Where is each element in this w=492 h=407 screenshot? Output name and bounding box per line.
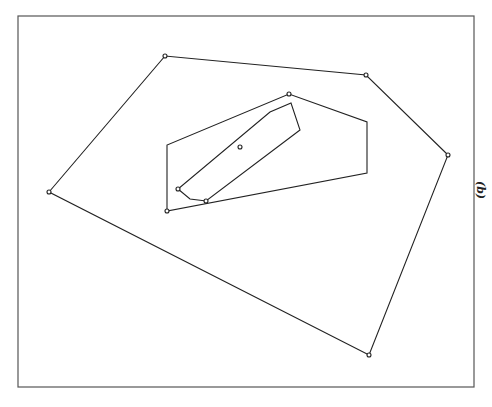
outer-hull-polygon xyxy=(49,56,448,355)
vertex-point xyxy=(47,190,51,194)
vertex-point xyxy=(165,209,169,213)
vertex-point xyxy=(204,199,208,203)
vertex-point xyxy=(176,187,180,191)
vertex-point xyxy=(446,153,450,157)
hull-vertex-points xyxy=(47,54,450,357)
vertex-point xyxy=(287,92,291,96)
vertex-point xyxy=(238,145,242,149)
vertex-point xyxy=(364,73,368,77)
vertex-point xyxy=(163,54,167,58)
figure-label: (b) xyxy=(472,180,488,200)
figure-frame xyxy=(18,16,474,387)
middle-hull-polygon xyxy=(167,94,367,211)
convex-hull-layers-diagram xyxy=(0,0,492,407)
vertex-point xyxy=(367,353,371,357)
inner-hull-polygon xyxy=(178,103,300,201)
